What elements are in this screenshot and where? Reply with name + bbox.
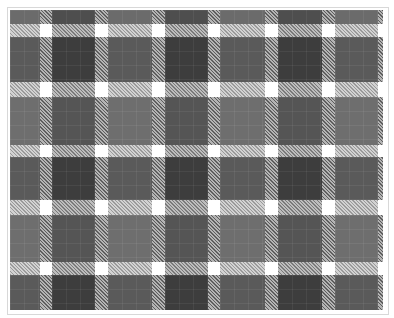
plaid-cell [152,82,165,97]
plaid-cell [52,275,95,310]
plaid-cell [265,157,278,200]
plaid-cell [220,10,265,24]
plaid-cell [152,275,165,310]
plaid-cell [265,215,278,262]
plaid-cell [335,37,378,82]
plaid-cell [265,145,278,157]
plaid-cell [335,145,378,157]
plaid-cell [165,157,208,200]
plaid-cell [10,24,40,37]
plaid-cell [335,275,378,310]
plaid-cell [165,82,208,97]
plaid-cell [220,37,265,82]
plaid-cell [95,82,108,97]
plaid-cell [108,10,152,24]
plaid-cell [265,97,278,145]
plaid-cell [278,97,322,145]
plaid-cell [108,97,152,145]
plaid-cell [322,157,335,200]
plaid-cell [165,37,208,82]
plaid-cell [108,262,152,275]
plaid-cell [208,82,220,97]
plaid-cell [40,275,52,310]
plaid-cell [220,157,265,200]
plaid-cell [52,10,95,24]
plaid-cell [108,24,152,37]
plaid-cell [265,275,278,310]
plaid-cell [165,10,208,24]
plaid-cell [278,157,322,200]
plaid-cell [152,37,165,82]
plaid-cell [10,37,40,82]
plaid-cell [52,215,95,262]
plaid-cell [378,82,383,97]
plaid-cell [152,97,165,145]
plaid-cell [335,10,378,24]
plaid-cell [108,82,152,97]
plaid-cell [40,157,52,200]
plaid-cell [10,200,40,215]
plaid-cell [335,200,378,215]
plaid-cell [108,215,152,262]
plaid-cell [95,275,108,310]
plaid-cell [378,37,383,82]
plaid-cell [378,275,383,310]
plaid-cell [278,200,322,215]
plaid-cell [322,24,335,37]
plaid-cell [278,37,322,82]
plaid-cell [10,145,40,157]
plaid-cell [10,275,40,310]
plaid-cell [322,37,335,82]
plaid-cell [52,37,95,82]
plaid-cell [378,157,383,200]
plaid-cell [165,97,208,145]
plaid-cell [322,275,335,310]
plaid-cell [52,145,95,157]
plaid-cell [52,262,95,275]
plaid-cell [165,24,208,37]
plaid-cell [335,262,378,275]
plaid-cell [10,215,40,262]
plaid-cell [220,24,265,37]
plaid-cell [10,82,40,97]
plaid-cell [322,97,335,145]
plaid-cell [52,24,95,37]
plaid-cell [108,275,152,310]
plaid-cell [220,215,265,262]
plaid-cell [208,145,220,157]
plaid-cell [322,82,335,97]
plaid-cell [165,215,208,262]
plaid-cell [278,275,322,310]
plaid-cell [278,145,322,157]
plaid-cell [208,157,220,200]
plaid-cell [40,215,52,262]
plaid-cell [40,200,52,215]
plaid-cell [265,82,278,97]
plaid-cell [220,275,265,310]
plaid-cell [40,145,52,157]
plaid-cell [95,215,108,262]
plaid-cell [208,262,220,275]
plaid-cell [152,262,165,275]
plaid-cell [278,215,322,262]
plaid-cell [378,10,383,24]
plaid-cell [220,262,265,275]
plaid-cell [278,24,322,37]
plaid-cell [322,200,335,215]
plaid-cell [208,10,220,24]
plaid-cell [378,215,383,262]
plaid-cell [322,215,335,262]
plaid-cell [108,145,152,157]
plaid-cell [220,200,265,215]
plaid-cell [265,262,278,275]
plaid-cell [278,10,322,24]
plaid-cell [108,157,152,200]
plaid-cell [208,215,220,262]
plaid-cell [52,157,95,200]
plaid-cell [10,10,40,24]
plaid-cell [208,24,220,37]
plaid-cell [378,145,383,157]
plaid-cell [335,24,378,37]
plaid-cell [95,10,108,24]
plaid-cell [208,275,220,310]
